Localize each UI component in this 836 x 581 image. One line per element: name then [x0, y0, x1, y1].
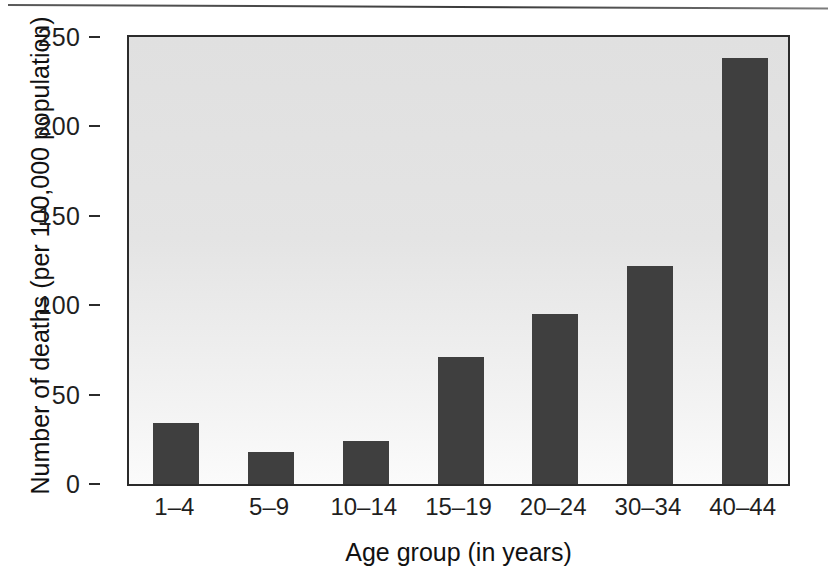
x-axis-tick-label: 20–24 — [520, 493, 587, 521]
y-axis-tick-mark — [89, 125, 100, 127]
y-axis-tick-mark — [89, 36, 100, 38]
y-axis: Number of deaths (per 100,000 population… — [0, 0, 130, 581]
plot-area — [127, 35, 790, 486]
y-axis-tick-mark — [89, 304, 100, 306]
bar — [722, 58, 768, 484]
x-axis-tick-label: 30–34 — [615, 493, 682, 521]
x-axis-title: Age group (in years) — [127, 538, 790, 567]
bar-chart-figure: Number of deaths (per 100,000 population… — [0, 0, 836, 581]
y-axis-tick-mark — [89, 483, 100, 485]
x-axis-tick-label: 10–14 — [330, 493, 397, 521]
bar-series — [129, 37, 788, 484]
y-axis-tick-label: 200 — [38, 112, 80, 141]
x-axis-tick-label: 15–19 — [425, 493, 492, 521]
y-axis-tick-label: 100 — [38, 291, 80, 320]
y-axis-tick-mark — [89, 394, 100, 396]
y-axis-tick-label: 250 — [38, 23, 80, 52]
x-axis-tick-label: 5–9 — [249, 493, 289, 521]
y-axis-tick-label: 50 — [52, 380, 80, 409]
y-axis-tick-label: 150 — [38, 201, 80, 230]
x-axis-tick-label: 1–4 — [154, 493, 194, 521]
x-axis-tick-labels: 1–45–910–1415–1920–2430–3440–44 — [127, 493, 790, 527]
y-axis-tick-mark — [89, 215, 100, 217]
bar — [343, 441, 389, 484]
bar — [532, 314, 578, 484]
x-axis-tick-label: 40–44 — [709, 493, 776, 521]
y-axis-title: Number of deaths (per 100,000 population… — [26, 25, 55, 495]
bar — [438, 357, 484, 484]
bar — [248, 452, 294, 484]
bar — [627, 266, 673, 484]
y-axis-tick-label: 0 — [66, 470, 80, 499]
bar — [153, 423, 199, 484]
